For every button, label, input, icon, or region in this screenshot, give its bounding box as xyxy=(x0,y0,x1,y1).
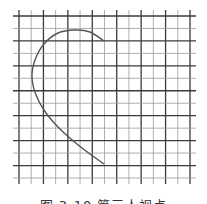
grid-diagram xyxy=(0,0,207,204)
caption-text: 图 3-10 第三人视点 xyxy=(40,199,168,204)
figure-caption: 图 3-10 第三人视点 xyxy=(0,195,207,204)
grid-lines xyxy=(13,10,196,184)
